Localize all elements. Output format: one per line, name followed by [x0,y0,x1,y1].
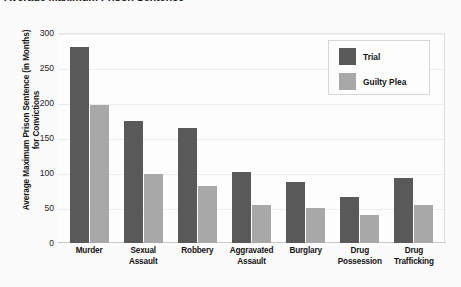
y-tick-label-100: 100 [2,168,54,178]
x-label-robbery: Robbery [170,246,224,286]
legend-label-trial: Trial [363,52,380,62]
legend-item-trial: Trial [339,48,429,65]
y-tick-label-0: 0 [2,238,54,248]
bar-guilty-plea [306,208,325,243]
bar-trial [70,47,89,243]
bar-trial [232,172,251,243]
bar-guilty-plea [144,174,163,243]
bar-guilty-plea [414,205,433,243]
x-label-drug-possession: DrugPossession [333,246,387,286]
x-label-drug-trafficking: DrugTrafficking [387,246,441,286]
bar-chart-figure: Average Maximum Prison Sentence Average … [0,0,461,287]
legend-item-guilty-plea: Guilty Plea [339,73,429,90]
bar-group [170,33,224,243]
x-axis-category-labels: MurderSexualAssaultRobberyAggravatedAssa… [58,246,445,286]
bar-guilty-plea [360,215,379,243]
x-label-murder: Murder [62,246,116,286]
x-label-line-1: Murder [76,246,103,255]
x-label-sexual-assault: SexualAssault [116,246,170,286]
legend-swatch-guilty-plea [339,73,356,90]
legend-swatch-trial [339,48,356,65]
bar-guilty-plea [198,186,217,243]
y-tick-label-150: 150 [2,133,54,143]
bar-guilty-plea [90,105,109,243]
bar-group [224,33,278,243]
y-tick-label-300: 300 [2,28,54,38]
x-label-line-1: Burglary [289,246,321,255]
y-axis-tick-labels: 300250200150100500 [0,33,54,243]
bar-trial [394,178,413,243]
bar-group [116,33,170,243]
chart-legend: Trial Guilty Plea [328,40,430,95]
bar-trial [124,121,143,244]
x-label-line-2: Assault [116,257,170,268]
y-tick-label-200: 200 [2,98,54,108]
bar-trial [178,128,197,244]
x-label-line-1: Sexual [130,246,156,255]
x-label-line-1: Aggravated [230,246,274,255]
x-label-line-2: Possession [333,257,387,268]
x-label-line-2: Assault [224,257,278,268]
bar-group [279,33,333,243]
x-label-line-2: Trafficking [387,257,441,268]
y-tick-label-50: 50 [2,203,54,213]
y-tick-label-250: 250 [2,63,54,73]
x-label-aggravated-assault: AggravatedAssault [224,246,278,286]
bar-trial [286,182,305,243]
chart-title: Average Maximum Prison Sentence [4,0,184,1]
bar-group [62,33,116,243]
x-label-burglary: Burglary [279,246,333,286]
x-label-line-1: Drug [351,246,370,255]
legend-label-guilty-plea: Guilty Plea [363,77,406,87]
x-label-line-1: Robbery [181,246,213,255]
bar-guilty-plea [252,205,271,243]
x-label-line-1: Drug [405,246,424,255]
bar-trial [340,197,359,243]
